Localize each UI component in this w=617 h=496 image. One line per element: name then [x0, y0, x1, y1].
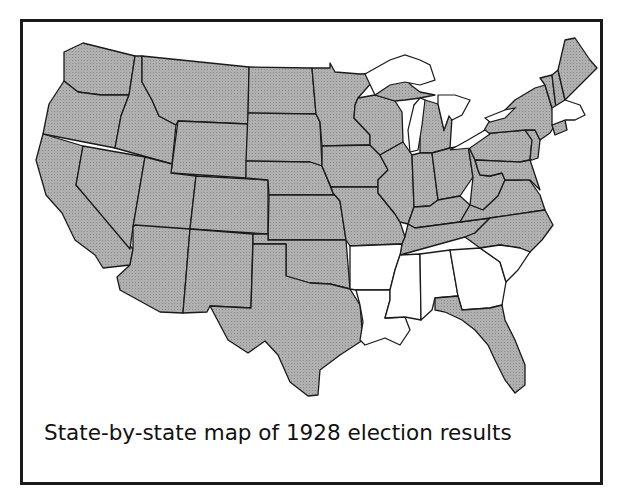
- state-north-dakota: [248, 67, 316, 114]
- map-caption: State-by-state map of 1928 election resu…: [44, 420, 512, 445]
- state-washington: [64, 43, 135, 95]
- state-kansas: [268, 195, 346, 240]
- state-maine: [558, 38, 597, 100]
- state-florida: [435, 296, 525, 393]
- state-south-dakota: [246, 113, 322, 166]
- state-ohio: [432, 145, 473, 200]
- state-wyoming: [171, 121, 248, 178]
- state-montana: [142, 56, 249, 125]
- state-colorado: [190, 176, 268, 234]
- state-new-mexico: [183, 229, 253, 313]
- lake-huron: [438, 95, 470, 130]
